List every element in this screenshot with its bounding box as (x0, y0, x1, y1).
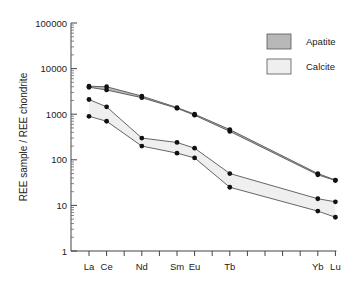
data-point (175, 140, 180, 145)
x-tick-label-eu: Eu (189, 261, 201, 272)
data-point (175, 106, 180, 111)
y-axis-label: REE sample / REE chondrite (18, 72, 29, 201)
legend: ApatiteCalcite (267, 34, 336, 74)
axes: 110100100010000100000LaCeNdSmEuTbYbLu (35, 18, 340, 273)
data-point (227, 129, 232, 134)
y-tick-label: 100000 (35, 18, 67, 29)
x-tick-label-nd: Nd (136, 261, 148, 272)
range-bands (89, 86, 335, 217)
series-line (89, 100, 335, 202)
legend-swatch-calcite (267, 59, 291, 74)
data-point (333, 215, 338, 220)
data-point (175, 151, 180, 156)
x-tick-label-yb: Yb (312, 261, 324, 272)
data-point (139, 136, 144, 141)
data-point (87, 85, 92, 90)
data-point (139, 95, 144, 100)
data-point (104, 119, 109, 124)
y-tick-label: 10000 (41, 63, 67, 74)
data-point (104, 88, 109, 93)
legend-label-calcite: Calcite (306, 61, 335, 72)
data-point (87, 114, 92, 119)
data-point (139, 144, 144, 149)
ree-chondrite-normalized-chart: 110100100010000100000LaCeNdSmEuTbYbLu RE… (0, 0, 354, 286)
calcite-band (89, 100, 335, 218)
x-tick-label-la: La (84, 261, 95, 272)
data-point (315, 172, 320, 177)
data-point (227, 171, 232, 176)
data-point (192, 146, 197, 151)
data-point (333, 199, 338, 204)
data-point (192, 156, 197, 161)
data-point (227, 185, 232, 190)
data-point (315, 209, 320, 214)
legend-swatch-apatite (267, 34, 291, 49)
y-tick-label: 10 (56, 200, 67, 211)
data-point (104, 104, 109, 109)
x-tick-label-tb: Tb (224, 261, 235, 272)
data-point (333, 178, 338, 183)
data-point (87, 97, 92, 102)
legend-label-apatite: Apatite (306, 36, 336, 47)
y-tick-label: 1000 (46, 109, 67, 120)
y-tick-label: 100 (51, 154, 67, 165)
x-tick-label-ce: Ce (101, 261, 113, 272)
data-point (315, 196, 320, 201)
x-tick-label-sm: Sm (170, 261, 184, 272)
x-tick-label-lu: Lu (330, 261, 341, 272)
data-point (192, 113, 197, 118)
y-tick-label: 1 (62, 246, 67, 257)
